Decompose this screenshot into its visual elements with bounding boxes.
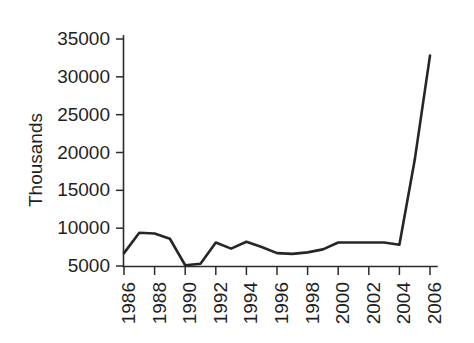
y-axis-tick-label: 15000 [57,179,110,200]
chart-canvas: Thousands 500010000150002000025000300003… [0,0,474,343]
x-axis-tick-label: 1992 [210,282,231,324]
x-axis-tick-label: 1998 [302,282,323,324]
y-axis-title-text: Thousands [25,113,46,207]
x-axis-tick-label: 2004 [393,282,414,325]
x-axis-tick-label: 1990 [179,282,200,324]
x-axis-tick-label: 1988 [149,282,170,324]
x-axis-tick-labels: 1986198819901992199419961998200020022004… [118,282,445,325]
x-axis-tick-label: 2006 [424,282,445,324]
y-axis-tick-label: 30000 [57,66,110,87]
x-axis-tick-label: 2000 [332,282,353,324]
y-axis-title: Thousands [25,113,46,207]
line-chart-figure: Thousands 500010000150002000025000300003… [0,0,474,343]
y-axis-tick-label: 20000 [57,142,110,163]
y-axis-tick-label: 25000 [57,104,110,125]
x-axis-tick-label: 2002 [363,282,384,324]
y-axis-tick-label: 10000 [57,217,110,238]
y-axis-tick-label: 5000 [68,255,110,276]
x-axis-tick-label: 1996 [271,282,292,324]
x-axis-tick-label: 1986 [118,282,139,324]
y-axis-tick-label: 35000 [57,28,110,49]
x-axis-tick-label: 1994 [240,282,261,325]
